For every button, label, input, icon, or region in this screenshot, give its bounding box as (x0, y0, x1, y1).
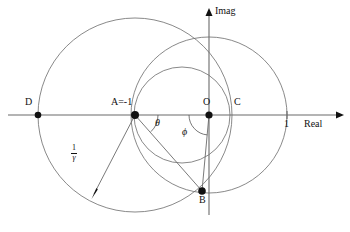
label-point-B: B (199, 195, 206, 205)
label-point-D: D (25, 97, 32, 107)
radius-arrow-line (94, 115, 135, 194)
real-axis-arrowhead (336, 112, 344, 119)
fraction-numerator: 1 (71, 144, 77, 152)
fraction-denominator: γ (71, 154, 77, 162)
point-marker-O (205, 111, 212, 118)
label-point-O: O (203, 97, 210, 107)
radius-arrowhead (92, 188, 98, 199)
diagram-canvas (0, 0, 350, 232)
imag-axis-arrowhead (206, 8, 213, 16)
point-marker-A (131, 111, 139, 119)
label-imag-axis: Imag (215, 6, 236, 16)
label-angle-theta: θ (155, 118, 160, 128)
point-marker-D (35, 112, 42, 119)
label-unit-tick: 1 (284, 119, 289, 129)
label-real-axis: Real (304, 119, 322, 129)
phi-angle-arc (189, 115, 207, 135)
segment-O-to-B (202, 115, 209, 191)
geometry-figure: D A=-1 O C B θ ϕ 1 Imag Real 1 γ (0, 0, 350, 232)
label-radius-one-over-gamma: 1 γ (71, 144, 77, 163)
segment-A-to-B (135, 115, 202, 191)
label-point-A: A=-1 (111, 97, 132, 107)
label-point-C: C (234, 97, 241, 107)
label-angle-phi: ϕ (182, 127, 187, 137)
